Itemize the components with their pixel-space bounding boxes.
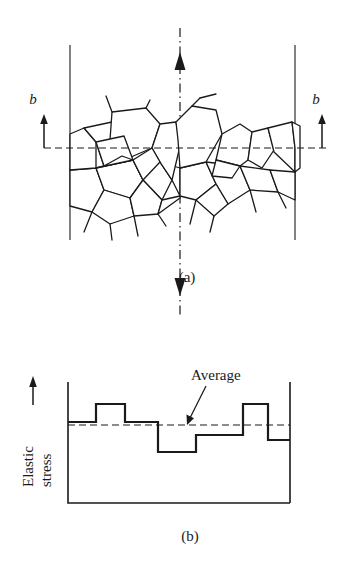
- scientific-figure-svg: b b (a) Average: [0, 0, 340, 565]
- b-left-label: b: [29, 91, 37, 107]
- y-axis-label-group: Elastic stress: [20, 376, 54, 487]
- b-right-arrow-head-icon: [318, 114, 326, 124]
- grain-boundary-stub: [84, 212, 92, 232]
- average-label: Average: [191, 367, 241, 383]
- grain-boundary-stub: [110, 224, 112, 240]
- plain-grain-group: [70, 160, 295, 224]
- elastic-stress-step-curve: [68, 404, 290, 452]
- hatched-grain: [176, 106, 222, 168]
- y-axis-label-line2: stress: [38, 454, 54, 487]
- grain-boundary-stub: [158, 214, 166, 226]
- grain-boundary-stub: [192, 98, 200, 106]
- panel-a-caption: (a): [179, 269, 196, 286]
- b-right-label: b: [312, 91, 320, 107]
- grain-boundary-stub: [200, 94, 216, 98]
- average-leader-line: [190, 386, 206, 418]
- tensile-arrow-up-icon: [175, 52, 186, 70]
- grain-boundary-stub: [250, 190, 256, 212]
- panel-b-caption: (b): [181, 528, 199, 545]
- y-axis-arrow-head-icon: [29, 376, 37, 387]
- burgers-vector-left: b: [29, 91, 48, 148]
- b-left-arrow-head-icon: [40, 114, 48, 124]
- y-axis-label-line1: Elastic: [20, 446, 36, 487]
- figure-root: b b (a) Average: [0, 0, 340, 565]
- average-leader: [187, 386, 207, 425]
- grain-boundary-stub: [134, 216, 138, 236]
- plot-axes: [68, 382, 290, 503]
- panel-b-stress-plot: Average Elastic stress (b): [20, 367, 290, 545]
- burgers-vector-right: b: [312, 91, 326, 148]
- panel-a-microstructure: b b (a): [29, 28, 326, 318]
- grain-boundary-stub: [146, 100, 150, 108]
- grain-boundary-stub: [210, 216, 214, 232]
- grain-boundary-stub: [190, 200, 196, 224]
- grain-boundary-stub: [106, 96, 112, 112]
